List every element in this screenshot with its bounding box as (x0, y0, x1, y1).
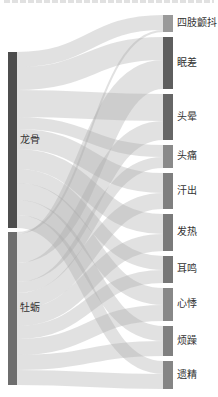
sankey-link (17, 104, 163, 108)
target-node-bar (163, 145, 173, 168)
target-node-label: 汗出 (177, 184, 197, 196)
source-node-bar (8, 52, 17, 228)
sankey-diagram: 龙骨牡蛎四肢颤抖眠差头晕头痛汗出发热耳鸣心悸烦躁遗精 (0, 0, 218, 397)
target-node-bar (163, 326, 173, 356)
target-node-label: 四肢颤抖 (177, 16, 217, 28)
target-node-label: 烦躁 (177, 334, 197, 346)
target-node-label: 心悸 (177, 297, 197, 309)
target-node-label: 发热 (177, 225, 197, 237)
target-node-bar (163, 288, 173, 321)
source-node-label: 龙骨 (20, 133, 40, 145)
target-node-bar (163, 361, 173, 389)
target-node-label: 眠差 (177, 56, 197, 68)
target-node-bar (163, 15, 173, 32)
target-node-bar (163, 37, 173, 89)
target-node-bar (163, 173, 173, 209)
target-node-bar (163, 94, 173, 140)
target-node-label: 头晕 (177, 111, 197, 122)
sankey-link (17, 378, 163, 382)
target-node-bar (163, 214, 173, 251)
target-node-label: 耳鸣 (177, 262, 197, 274)
source-node-label: 牡蛎 (20, 301, 40, 313)
target-node-label: 头痛 (177, 149, 197, 161)
target-node-label: 遗精 (177, 368, 197, 380)
source-node-bar (8, 232, 17, 385)
target-node-bar (163, 256, 173, 283)
sankey-links (17, 23, 163, 382)
